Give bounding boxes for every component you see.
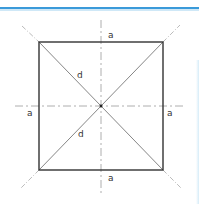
label-diagonal-upper: d [77, 70, 83, 80]
center-point [100, 105, 103, 108]
label-side-top: a [108, 30, 114, 40]
label-side-bottom: a [108, 173, 114, 183]
label-diagonal-lower: d [78, 129, 84, 139]
label-side-right: a [167, 108, 173, 118]
square-diagram: a a a a d d [0, 0, 199, 204]
diagonal-extension-bottom-right [163, 170, 181, 188]
diagonal-extension-bottom-left [21, 170, 39, 188]
diagonal-extension-top-right [163, 25, 180, 42]
label-side-left: a [27, 108, 33, 118]
diagonal-extension-top-left [22, 26, 39, 42]
